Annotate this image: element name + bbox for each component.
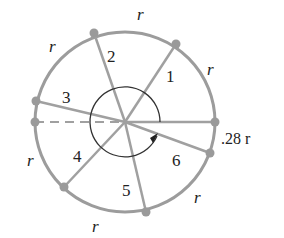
- radius-label-1: 1: [166, 67, 175, 86]
- arc-label-lower-left: r: [27, 151, 34, 170]
- point-dot: [60, 183, 69, 192]
- radian-diagram: 1 2 3 4 5 6 r r r r r r .28 r: [0, 0, 284, 238]
- point-dot: [31, 118, 40, 127]
- radius-label-5: 5: [122, 181, 131, 200]
- point-dot: [172, 40, 181, 49]
- radius-3: [36, 101, 125, 122]
- arc-label-remainder: .28 r: [221, 130, 251, 147]
- radius-label-3: 3: [62, 88, 71, 107]
- arc-label-upper-left: r: [49, 37, 56, 56]
- arc-label-top: r: [137, 5, 144, 24]
- radius-6: [125, 122, 210, 153]
- radius-label-2: 2: [107, 47, 116, 66]
- diagram-svg: 1 2 3 4 5 6 r r r r r r .28 r: [0, 0, 284, 238]
- point-dot: [142, 208, 151, 217]
- point-dot: [90, 29, 99, 38]
- arc-label-bottom: r: [92, 217, 99, 236]
- radius-label-6: 6: [172, 151, 181, 170]
- radius-label-4: 4: [73, 147, 82, 166]
- point-dot: [206, 149, 215, 158]
- point-dot: [211, 118, 220, 127]
- arc-label-lower-right: r: [194, 188, 201, 207]
- point-dot: [32, 97, 41, 106]
- arc-label-upper-right: r: [207, 60, 214, 79]
